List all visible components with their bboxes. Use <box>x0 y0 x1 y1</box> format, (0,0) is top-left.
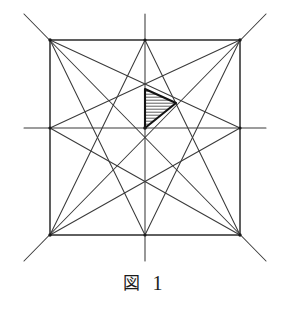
caption-number: 1 <box>153 273 163 293</box>
vertex-dot-center <box>143 126 147 130</box>
vertex-dot-top-mid <box>143 38 146 41</box>
vertex-dot-bottom-right <box>238 233 241 236</box>
figure-caption: 図 1 <box>0 262 285 304</box>
figure-container: 図 1 <box>0 0 285 314</box>
vertex-dot-right-mid <box>238 126 241 129</box>
vertex-dot-top-right <box>238 38 241 41</box>
vertex-dot-bottom-left <box>48 233 51 236</box>
caption-label: 図 <box>123 275 140 292</box>
vertex-dot-bottom-mid <box>143 233 146 236</box>
vertex-dot-top-left <box>48 38 51 41</box>
vertex-dot-left-mid <box>48 126 51 129</box>
